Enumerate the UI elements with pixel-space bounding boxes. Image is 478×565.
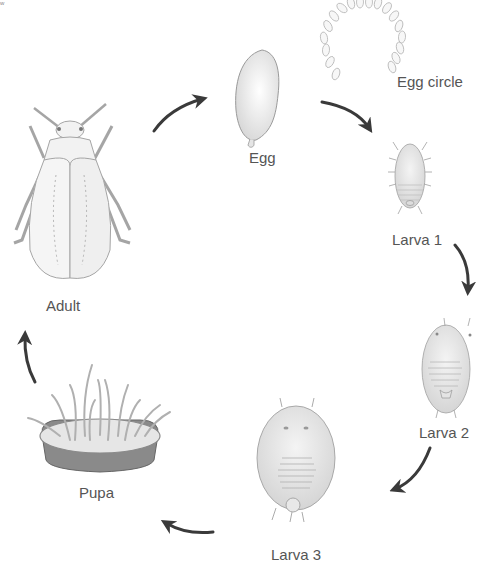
arrow-pupa-to-adult bbox=[25, 336, 35, 382]
adult-label: Adult bbox=[46, 297, 80, 314]
egg-circle-label: Egg circle bbox=[397, 73, 463, 90]
adult-illustration bbox=[14, 104, 130, 278]
arrow-egg-to-larva1 bbox=[322, 102, 369, 128]
larva-3-label: Larva 3 bbox=[271, 546, 321, 563]
larva-1-illustration bbox=[388, 142, 432, 214]
arrow-larva2-to-larva3 bbox=[395, 448, 430, 489]
larva-1-label: Larva 1 bbox=[392, 231, 442, 248]
larva-2-illustration bbox=[422, 318, 472, 418]
arrow-larva3-to-pupa bbox=[166, 523, 213, 533]
egg-illustration bbox=[236, 50, 279, 147]
arrow-larva1-to-larva2 bbox=[455, 245, 468, 290]
larva-3-illustration bbox=[257, 398, 335, 522]
egg-label: Egg bbox=[249, 149, 276, 166]
arrow-adult-to-egg bbox=[154, 99, 202, 131]
pupa-illustration bbox=[28, 365, 170, 472]
egg-circle-illustration bbox=[320, 0, 406, 81]
pupa-label: Pupa bbox=[79, 484, 114, 501]
larva-2-label: Larva 2 bbox=[419, 424, 469, 441]
